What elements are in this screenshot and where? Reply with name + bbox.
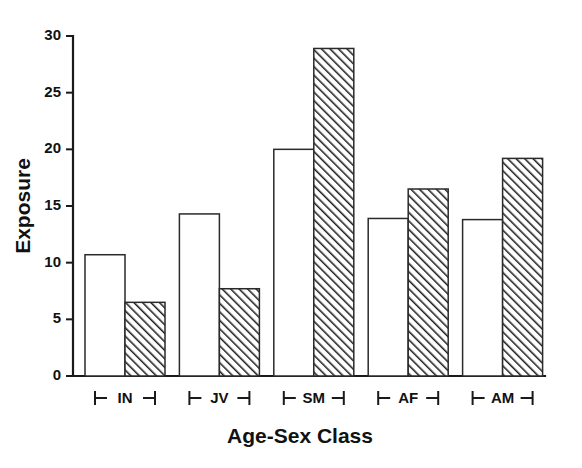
x-axis-title: Age-Sex Class — [227, 424, 373, 447]
y-tick-label-0: 0 — [53, 366, 61, 383]
x-axis: INJVSMAFAM Age-Sex Class — [73, 376, 545, 447]
y-tick-label-10: 10 — [44, 253, 61, 270]
y-tick-label-15: 15 — [44, 196, 61, 213]
x-category-labels: INJVSMAFAM — [118, 389, 515, 406]
x-category-label-AM: AM — [491, 389, 514, 406]
bar-IN-open — [85, 255, 125, 376]
x-category-label-SM: SM — [303, 389, 326, 406]
x-category-label-JV: JV — [210, 389, 228, 406]
y-tick-label-30: 30 — [44, 26, 61, 43]
x-bracket-right-AF — [426, 391, 438, 405]
bar-chart-canvas: 051015202530 Exposure INJVSMAFAM Age-Sex… — [0, 0, 582, 468]
y-tick-label-20: 20 — [44, 139, 61, 156]
x-bracket-left-AM — [473, 391, 485, 405]
y-axis: 051015202530 Exposure — [11, 26, 73, 383]
bar-AM-open — [463, 220, 503, 376]
bar-AM-hatched — [503, 158, 543, 376]
y-axis-title: Exposure — [11, 158, 34, 254]
bar-SM-hatched — [314, 48, 354, 376]
x-category-label-AF: AF — [398, 389, 418, 406]
x-bracket-left-AF — [378, 391, 390, 405]
bar-IN-hatched — [125, 302, 165, 376]
x-bracket-right-JV — [237, 391, 249, 405]
y-tick-labels: 051015202530 — [44, 26, 61, 383]
bar-JV-open — [179, 214, 219, 376]
x-bracket-right-IN — [143, 391, 155, 405]
y-tick-label-5: 5 — [53, 309, 61, 326]
x-bracket-right-AM — [521, 391, 533, 405]
bar-SM-open — [274, 149, 314, 376]
x-bracket-left-SM — [284, 391, 296, 405]
y-tick-label-25: 25 — [44, 83, 61, 100]
bar-series-group — [85, 48, 543, 376]
x-bracket-left-JV — [189, 391, 201, 405]
bar-JV-hatched — [219, 289, 259, 376]
x-category-label-IN: IN — [118, 389, 133, 406]
bar-AF-open — [368, 218, 408, 376]
bar-AF-hatched — [408, 189, 448, 376]
x-bracket-left-IN — [95, 391, 107, 405]
x-bracket-right-SM — [332, 391, 344, 405]
chart-figure: 051015202530 Exposure INJVSMAFAM Age-Sex… — [0, 0, 582, 468]
